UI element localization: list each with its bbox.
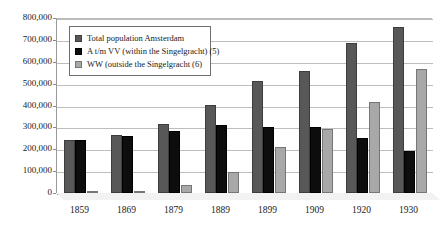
y-axis-tick-label: 100,000 (0, 166, 52, 175)
bar (275, 147, 286, 193)
x-axis-tick-label: 1899 (244, 205, 291, 215)
x-axis-tick-label: 1920 (338, 205, 385, 215)
y-axis-tick-label: 400,000 (0, 101, 52, 110)
bar (122, 136, 133, 193)
legend-label: WW (outside the Singelgracht (6) (87, 60, 202, 69)
bar (216, 125, 227, 193)
bar (299, 71, 310, 193)
bar (346, 43, 357, 193)
legend-item: A t/m VV (within the Singelgracht) (5) (75, 45, 205, 57)
x-axis-tick-label: 1889 (197, 205, 244, 215)
chart-legend: Total population AmsterdamA t/m VV (with… (69, 26, 211, 76)
y-axis-tick-label: 300,000 (0, 122, 52, 131)
bar-group (339, 18, 386, 193)
bar (404, 151, 415, 193)
y-axis-tick-label: 500,000 (0, 79, 52, 88)
legend-swatch-icon (75, 48, 82, 55)
bar (369, 102, 380, 193)
y-axis-tick-label: 600,000 (0, 57, 52, 66)
y-axis-tick-label: 700,000 (0, 35, 52, 44)
legend-label: Total population Amsterdam (87, 34, 184, 43)
legend-swatch-icon (75, 35, 82, 42)
bar (169, 131, 180, 193)
y-axis-tick-label: 0 (0, 188, 52, 197)
legend-swatch-icon (75, 61, 82, 68)
bar-group (245, 18, 292, 193)
y-axis-tick-label: 800,000 (0, 13, 52, 22)
axis-baseline-shelf (56, 193, 440, 201)
bar (87, 191, 98, 193)
bar (75, 140, 86, 193)
x-axis-tick-label: 1909 (291, 205, 338, 215)
y-axis-tick-mark (53, 193, 56, 194)
bar (322, 129, 333, 193)
bar (134, 191, 145, 193)
x-axis-tick-label: 1879 (150, 205, 197, 215)
bar (111, 135, 122, 193)
bar-group (292, 18, 339, 193)
bar (64, 140, 75, 193)
bar (310, 127, 321, 193)
bar (181, 185, 192, 193)
bar (393, 27, 404, 193)
bar (228, 172, 239, 193)
legend-item: Total population Amsterdam (75, 32, 205, 44)
bar (158, 124, 169, 193)
bar (357, 138, 368, 193)
bar (416, 69, 427, 193)
legend-label: A t/m VV (within the Singelgracht) (5) (87, 47, 219, 56)
population-bar-chart: 800,000700,000600,000500,000400,000300,0… (0, 0, 441, 227)
x-axis-tick-label: 1859 (56, 205, 103, 215)
y-axis-tick-label: 200,000 (0, 144, 52, 153)
bar (205, 105, 216, 193)
x-axis-tick-label: 1869 (103, 205, 150, 215)
bar-group (386, 18, 433, 193)
x-axis-tick-label: 1930 (385, 205, 432, 215)
bar (263, 127, 274, 193)
bar (252, 81, 263, 193)
legend-item: WW (outside the Singelgracht (6) (75, 58, 205, 70)
